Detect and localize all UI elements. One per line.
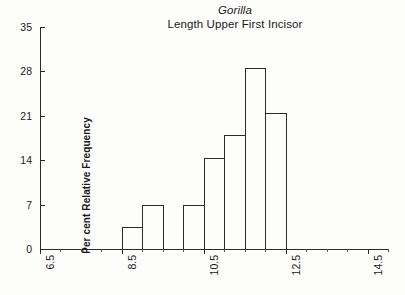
x-tick-mark-minor xyxy=(101,249,102,252)
chart-title-subtitle: Length Upper First Incisor xyxy=(110,18,360,32)
x-tick-mark-minor xyxy=(224,249,225,252)
y-tick-label: 0 xyxy=(4,244,32,255)
x-tick-mark-minor xyxy=(245,249,246,252)
chart-title: Gorilla Length Upper First Incisor xyxy=(110,4,360,31)
y-axis-label-holder: Per cent Relative Frequency xyxy=(52,60,66,230)
x-tick-mark-minor xyxy=(306,249,307,252)
y-tick-label: 7 xyxy=(4,200,32,211)
y-tick-label-wrap: 21 xyxy=(0,116,40,117)
histogram-bar xyxy=(183,205,204,249)
x-tick-mark-minor xyxy=(60,249,61,252)
histogram-figure: Gorilla Length Upper First Incisor Per c… xyxy=(0,0,405,295)
x-tick-label: 14.5 xyxy=(373,255,384,275)
y-tick-label: 14 xyxy=(4,155,32,166)
x-tick-mark-minor xyxy=(163,249,164,252)
x-tick-label: 12.5 xyxy=(291,255,302,275)
chart-title-species: Gorilla xyxy=(110,4,360,18)
x-tick-label: 6.5 xyxy=(45,255,56,270)
x-tick-mark-minor xyxy=(347,249,348,252)
y-axis-label: Per cent Relative Frequency xyxy=(81,106,92,266)
histogram-bar xyxy=(204,158,225,249)
histogram-bar xyxy=(265,113,286,249)
x-tick-mark-minor xyxy=(327,249,328,252)
x-tick-mark xyxy=(368,249,369,254)
x-tick-mark xyxy=(204,249,205,254)
x-tick-mark-minor xyxy=(183,249,184,252)
histogram-bar xyxy=(245,68,266,249)
x-tick-label: 10.5 xyxy=(209,255,220,275)
y-tick-mark xyxy=(40,27,45,28)
y-tick-label: 28 xyxy=(4,66,32,77)
y-tick-label-wrap: 14 xyxy=(0,160,40,161)
x-tick-mark-minor xyxy=(265,249,266,252)
y-tick-label-wrap: 0 xyxy=(0,249,40,250)
histogram-bar xyxy=(122,227,143,249)
y-tick-mark xyxy=(40,71,45,72)
x-tick-mark-minor xyxy=(388,249,389,252)
y-tick-mark xyxy=(40,160,45,161)
x-tick-label: 8.5 xyxy=(127,255,138,270)
y-tick-mark xyxy=(40,116,45,117)
y-axis-spine xyxy=(40,27,41,250)
x-tick-mark xyxy=(286,249,287,254)
y-tick-label-wrap: 7 xyxy=(0,205,40,206)
x-axis-spine xyxy=(40,249,388,250)
histogram-bar xyxy=(224,135,245,249)
x-tick-mark xyxy=(40,249,41,254)
y-tick-label: 35 xyxy=(4,22,32,33)
x-tick-mark-minor xyxy=(81,249,82,252)
histogram-bar xyxy=(142,205,163,249)
y-tick-mark xyxy=(40,205,45,206)
y-tick-label-wrap: 35 xyxy=(0,27,40,28)
y-tick-label-wrap: 28 xyxy=(0,71,40,72)
x-tick-mark xyxy=(122,249,123,254)
x-tick-mark-minor xyxy=(142,249,143,252)
y-tick-label: 21 xyxy=(4,111,32,122)
